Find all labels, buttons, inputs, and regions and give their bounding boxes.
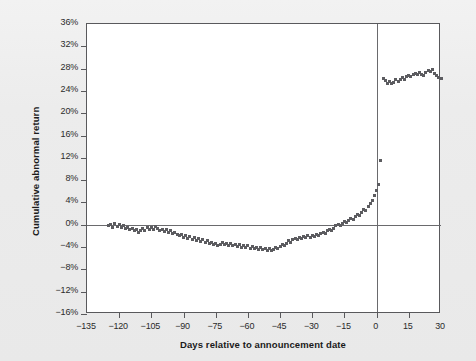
y-axis-tick: [81, 292, 87, 293]
y-axis-tick: [81, 136, 87, 137]
plot-area: [86, 23, 440, 313]
x-axis-tick: [344, 312, 345, 318]
x-axis-tick-label: 30: [420, 321, 460, 331]
data-point: [360, 211, 363, 214]
chart-figure: −16%−12%−8%−4%0%4%8%12%16%20%24%28%32%36…: [0, 0, 476, 361]
data-point: [369, 202, 372, 205]
x-axis-tick: [184, 312, 185, 318]
y-axis-tick-label: 4%: [46, 195, 78, 205]
y-axis-tick: [81, 225, 87, 226]
y-axis-tick: [81, 46, 87, 47]
data-point: [152, 228, 155, 231]
y-axis-tick-label: 16%: [46, 129, 78, 139]
data-point: [283, 244, 286, 247]
data-point: [371, 199, 374, 202]
data-point: [352, 218, 355, 221]
y-axis-tick: [81, 69, 87, 70]
x-axis-tick: [119, 312, 120, 318]
data-point: [364, 209, 367, 212]
y-axis-tick-label: 12%: [46, 151, 78, 161]
y-axis-tick: [81, 202, 87, 203]
y-axis-tick-label: 24%: [46, 84, 78, 94]
x-axis-tick: [216, 312, 217, 318]
x-axis-tick: [280, 312, 281, 318]
y-axis-tick: [81, 269, 87, 270]
data-point: [358, 214, 361, 217]
y-axis-tick-label: 36%: [46, 17, 78, 27]
data-point: [111, 226, 114, 229]
zero-reference-line: [87, 225, 441, 226]
x-axis-tick: [377, 312, 378, 318]
y-axis-tick: [81, 314, 87, 315]
x-axis-tick: [312, 312, 313, 318]
x-axis-tick: [409, 312, 410, 318]
y-axis-tick: [81, 180, 87, 181]
data-point: [375, 189, 378, 192]
data-point: [377, 183, 380, 186]
y-axis-tick-label: −8%: [46, 262, 78, 272]
y-axis-tick: [81, 247, 87, 248]
data-point: [379, 159, 382, 162]
y-axis-tick-label: 0%: [46, 218, 78, 228]
y-axis-tick-label: −16%: [46, 307, 78, 317]
x-axis-tick: [248, 312, 249, 318]
y-axis-tick-label: −12%: [46, 285, 78, 295]
data-point: [422, 74, 425, 77]
y-axis-tick: [81, 113, 87, 114]
y-axis-title: Cumulative abnormal return: [30, 107, 41, 236]
y-axis-tick-label: 20%: [46, 106, 78, 116]
data-point: [143, 229, 146, 232]
y-axis-tick: [81, 91, 87, 92]
x-axis-tick: [151, 312, 152, 318]
data-point: [373, 194, 376, 197]
y-axis-tick-label: −4%: [46, 240, 78, 250]
y-axis-tick: [81, 158, 87, 159]
x-axis-title: Days relative to announcement date: [86, 339, 440, 350]
y-axis-tick-label: 32%: [46, 39, 78, 49]
announcement-date-line: [377, 24, 378, 314]
y-axis-tick-label: 28%: [46, 62, 78, 72]
y-axis-tick-label: 8%: [46, 173, 78, 183]
data-point: [367, 205, 370, 208]
data-point: [440, 77, 443, 80]
data-point: [148, 228, 151, 231]
